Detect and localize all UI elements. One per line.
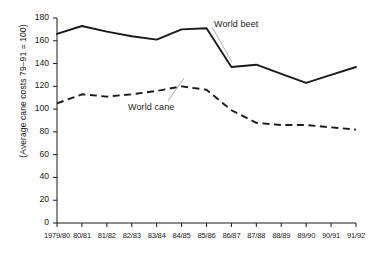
plot-area (0, 0, 370, 259)
axis-lines (57, 18, 356, 223)
x-tick-label: 90/91 (322, 231, 340, 240)
x-tick-label: 89/90 (297, 231, 315, 240)
y-tick-label: 60 (23, 149, 49, 159)
y-tick-label: 20 (23, 194, 49, 204)
y-tick-label: 180 (23, 12, 49, 22)
annotation-world-cane: World cane (128, 102, 174, 112)
x-tick-marks (57, 223, 356, 227)
leader-line-world-cane (168, 78, 184, 101)
x-tick-label: 87/88 (247, 231, 265, 240)
y-tick-label: 80 (23, 126, 49, 136)
x-tick-label: 1979/80 (44, 231, 70, 240)
x-tick-label: 85/86 (198, 231, 216, 240)
y-tick-label: 40 (23, 171, 49, 181)
y-tick-label: 120 (23, 80, 49, 90)
x-tick-label: 86/87 (222, 231, 240, 240)
x-tick-label: 81/82 (98, 231, 116, 240)
leader-line-world-beet (212, 27, 232, 62)
annotation-world-beet: World beet (214, 19, 258, 29)
y-tick-label: 100 (23, 103, 49, 113)
y-tick-marks (53, 18, 57, 223)
x-tick-label: 91/92 (347, 231, 365, 240)
x-tick-label: 80/81 (73, 231, 91, 240)
y-tick-label: 140 (23, 58, 49, 68)
y-tick-label: 160 (23, 35, 49, 45)
x-tick-label: 88/89 (272, 231, 290, 240)
x-tick-label: 84/85 (173, 231, 191, 240)
chart-container: (Average cane costs 79–91 = 100) 0204060… (0, 0, 370, 259)
series-line-world-cane (57, 86, 356, 129)
x-tick-label: 82/83 (123, 231, 141, 240)
series-line-world-beet (57, 26, 356, 83)
x-tick-label: 83/84 (148, 231, 166, 240)
y-tick-label: 0 (23, 217, 49, 227)
